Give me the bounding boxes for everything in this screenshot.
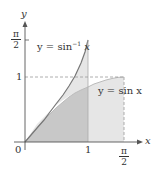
arcsin-label-suffix: x <box>81 41 90 52</box>
x-tick-label-pi2: π 2 <box>119 146 129 167</box>
arcsin-label-prefix: y = sin <box>37 41 72 52</box>
arcsin-label-sup: −1 <box>72 40 81 47</box>
x-tick-pi2-denominator: 2 <box>119 157 129 167</box>
y-tick-label-pi2: π 2 <box>11 29 21 50</box>
y-axis-label: y <box>21 8 27 19</box>
sin-label: y = sin x <box>98 85 142 96</box>
x-tick-label-1: 1 <box>85 144 91 155</box>
x-axis-label: x <box>145 135 151 146</box>
x-tick-pi2-numerator: π <box>119 146 129 157</box>
arcsin-label: y = sin−1 x <box>37 40 90 52</box>
origin-label: 0 <box>15 144 21 155</box>
y-tick-pi2-numerator: π <box>11 29 21 40</box>
y-tick-label-1: 1 <box>16 71 22 82</box>
y-tick-pi2-denominator: 2 <box>11 40 21 50</box>
